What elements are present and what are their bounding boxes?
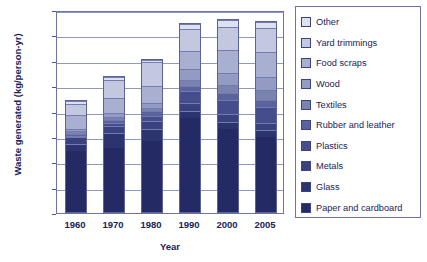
- y-axis-title: Waste generated (kg/person-yr): [12, 25, 23, 185]
- bar-segment: [66, 104, 86, 115]
- bar-segment: [256, 77, 276, 91]
- x-axis-title: Year: [56, 241, 284, 252]
- bar-segment: [218, 73, 238, 86]
- legend-item[interactable]: Other: [301, 12, 416, 33]
- bar-segment: [180, 69, 200, 80]
- gridline: [57, 139, 283, 140]
- legend-label: Wood: [316, 79, 340, 89]
- legend-label: Rubber and leather: [316, 120, 395, 130]
- bar-1960[interactable]: [65, 100, 87, 213]
- bar-segment: [180, 111, 200, 119]
- bar-segment: [142, 86, 162, 102]
- x-tick-label: 2005: [242, 219, 288, 230]
- legend-item[interactable]: Food scraps: [301, 53, 416, 74]
- bar-segment: [256, 100, 276, 107]
- gridline: [57, 12, 283, 13]
- waste-generation-stacked-bar-chart: Waste generated (kg/person-yr) 010020030…: [0, 0, 427, 262]
- bar-segment: [218, 20, 238, 27]
- legend: OtherYard trimmingsFood scrapsWoodTextil…: [295, 6, 421, 218]
- bar-segment: [104, 148, 124, 212]
- legend-item[interactable]: Metals: [301, 156, 416, 177]
- legend-swatch-icon: [301, 58, 311, 68]
- gridline: [57, 88, 283, 89]
- legend-item[interactable]: Plastics: [301, 136, 416, 157]
- bar-segment: [218, 114, 238, 122]
- bar-segment: [142, 141, 162, 212]
- bar-segment: [180, 29, 200, 51]
- legend-item[interactable]: Rubber and leather: [301, 115, 416, 136]
- bar-segment: [180, 51, 200, 69]
- legend-swatch-icon: [301, 203, 311, 213]
- legend-swatch-icon: [301, 100, 311, 110]
- bar-1980[interactable]: [141, 59, 163, 213]
- bar-segment: [66, 144, 86, 151]
- legend-label: Other: [316, 17, 339, 27]
- legend-label: Paper and cardboard: [316, 203, 402, 213]
- bar-1990[interactable]: [179, 23, 201, 213]
- gridline: [57, 37, 283, 38]
- legend-label: Yard trimmings: [316, 38, 377, 48]
- bar-segment: [256, 52, 276, 77]
- bar-segment: [256, 123, 276, 131]
- bar-segment: [218, 27, 238, 50]
- legend-label: Food scraps: [316, 58, 367, 68]
- legend-item[interactable]: Paper and cardboard: [301, 197, 416, 218]
- bar-segment: [104, 98, 124, 114]
- gridline: [57, 190, 283, 191]
- legend-item[interactable]: Wood: [301, 74, 416, 95]
- bar-segment: [218, 129, 238, 212]
- bar-segment: [180, 103, 200, 111]
- bar-segment: [256, 90, 276, 100]
- legend-item[interactable]: Glass: [301, 177, 416, 198]
- bar-1970[interactable]: [103, 76, 125, 213]
- legend-swatch-icon: [301, 141, 311, 151]
- legend-swatch-icon: [301, 38, 311, 48]
- bar-segment: [142, 62, 162, 86]
- bar-segment: [142, 121, 162, 129]
- legend-label: Glass: [316, 182, 340, 192]
- gridline: [57, 114, 283, 115]
- legend-item[interactable]: Yard trimmings: [301, 33, 416, 54]
- bar-segment: [142, 129, 162, 142]
- bar-segment: [180, 91, 200, 102]
- legend-swatch-icon: [301, 17, 311, 27]
- legend-label: Plastics: [316, 141, 348, 151]
- bar-segment: [66, 151, 86, 212]
- bar-segment: [218, 50, 238, 73]
- legend-label: Metals: [316, 161, 343, 171]
- legend-swatch-icon: [301, 161, 311, 171]
- bar-segment: [180, 118, 200, 212]
- legend-swatch-icon: [301, 120, 311, 130]
- bar-2000[interactable]: [217, 19, 239, 213]
- y-tick-mark: [52, 214, 56, 215]
- gridline: [57, 164, 283, 165]
- bar-2005[interactable]: [255, 21, 277, 213]
- bar-segment: [256, 107, 276, 123]
- bar-segment: [256, 28, 276, 52]
- gridline: [57, 63, 283, 64]
- legend-swatch-icon: [301, 182, 311, 192]
- legend-item[interactable]: Textiles: [301, 94, 416, 115]
- bar-segment: [104, 80, 124, 98]
- legend-label: Textiles: [316, 100, 347, 110]
- bar-segment: [218, 122, 238, 129]
- bar-segment: [104, 133, 124, 148]
- bar-segment: [218, 100, 238, 114]
- plot-area: [56, 11, 284, 214]
- legend-swatch-icon: [301, 79, 311, 89]
- bar-segment: [66, 115, 86, 129]
- bar-segment: [104, 126, 124, 133]
- bar-segment: [218, 85, 238, 93]
- bar-segment: [256, 137, 276, 212]
